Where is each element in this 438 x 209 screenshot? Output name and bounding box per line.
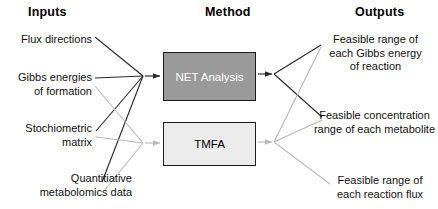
diagram-canvas: Inputs Method Outputs Flux directions Gi… bbox=[0, 0, 438, 209]
input-wires-to-net bbox=[95, 37, 143, 182]
method-box-tmfa-label: TMFA bbox=[194, 138, 225, 150]
method-box-tmfa: TMFA bbox=[163, 122, 256, 166]
input-label-stochiometric-matrix: Stochiometric matrix bbox=[0, 122, 92, 149]
column-header-inputs: Inputs bbox=[28, 5, 67, 19]
column-header-outputs: Outputs bbox=[355, 5, 404, 19]
method-box-net-analysis-label: NET Analysis bbox=[175, 71, 243, 83]
method-box-net-analysis: NET Analysis bbox=[163, 52, 256, 101]
output-label-reaction-flux-range: Feasible range of each reaction flux bbox=[322, 174, 438, 201]
output-label-gibbs-energy-range: Feasible range of each Gibbs energy of r… bbox=[313, 33, 438, 74]
column-header-method: Method bbox=[205, 5, 251, 19]
input-label-metabolomics-data: Quantitiative metabolomics data bbox=[0, 172, 132, 199]
input-label-gibbs-energies: Gibbs energies of formation bbox=[0, 71, 92, 98]
input-label-flux-directions: Flux directions bbox=[0, 33, 92, 47]
output-label-concentration-range: Feasible concentration range of each met… bbox=[311, 109, 438, 136]
